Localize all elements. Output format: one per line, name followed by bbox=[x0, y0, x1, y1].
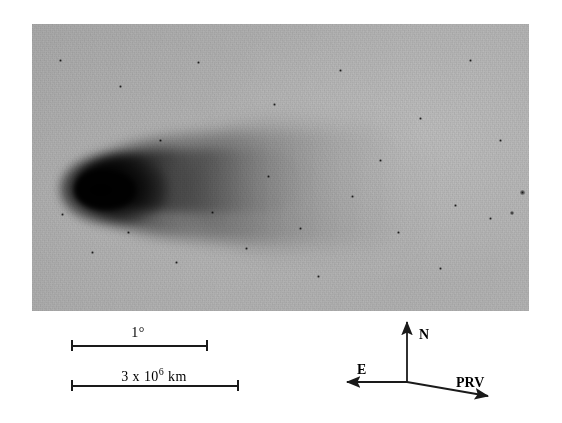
field-star bbox=[159, 139, 162, 142]
field-star bbox=[197, 61, 200, 64]
field-star bbox=[211, 211, 214, 214]
compass-label-projected-radius-vector: PRV bbox=[456, 375, 484, 391]
field-star bbox=[379, 159, 382, 162]
field-star bbox=[510, 211, 514, 215]
comet-coma-halo bbox=[60, 152, 168, 226]
plate-vignette bbox=[32, 24, 529, 311]
field-star bbox=[91, 251, 94, 254]
field-star bbox=[61, 213, 64, 216]
field-star bbox=[119, 85, 122, 88]
scale-bar-tick-linear-end bbox=[237, 380, 239, 391]
field-star bbox=[520, 190, 525, 195]
field-star bbox=[499, 139, 502, 142]
scale-bar-line-linear bbox=[71, 385, 237, 387]
comet-tail-faint-envelope bbox=[182, 120, 432, 252]
field-star bbox=[299, 227, 302, 230]
compass-label-east: E bbox=[357, 362, 366, 378]
comet-nucleus bbox=[86, 180, 116, 200]
field-star bbox=[317, 275, 320, 278]
plate-grain-overlay bbox=[32, 24, 529, 311]
field-star bbox=[351, 195, 354, 198]
field-star bbox=[397, 231, 400, 234]
comet-image-plate bbox=[32, 24, 529, 311]
field-star bbox=[59, 59, 62, 62]
field-star bbox=[339, 69, 342, 72]
scale-bar-line-angular bbox=[71, 345, 206, 347]
field-star bbox=[489, 217, 492, 220]
scale-exponent: 6 bbox=[159, 366, 164, 377]
plate-grain bbox=[32, 24, 529, 311]
field-star bbox=[469, 59, 472, 62]
field-star bbox=[273, 103, 276, 106]
compass-label-north: N bbox=[419, 327, 429, 343]
field-star bbox=[419, 117, 422, 120]
scale-bar-tick-angular-end bbox=[206, 340, 208, 351]
comet-tail bbox=[78, 132, 423, 242]
comet-coma bbox=[74, 170, 136, 210]
field-star bbox=[267, 175, 270, 178]
comet-tail-core bbox=[78, 150, 308, 212]
field-star bbox=[454, 204, 457, 207]
field-star bbox=[245, 247, 248, 250]
scale-bar-tick-linear-start bbox=[71, 380, 73, 391]
field-star bbox=[439, 267, 442, 270]
scale-bar-label-angular: 1° bbox=[131, 325, 144, 341]
scale-bar-label-linear: 3 x 106 km bbox=[121, 366, 186, 385]
field-star bbox=[175, 261, 178, 264]
scale-bar-tick-angular-start bbox=[71, 340, 73, 351]
field-star bbox=[127, 231, 130, 234]
